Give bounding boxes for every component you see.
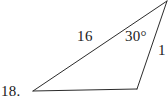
base-edge-line — [33, 89, 137, 91]
side-length-label-1: 1 — [158, 43, 166, 58]
long-edge-line — [33, 1, 167, 91]
triangle-shape — [0, 0, 168, 104]
side-length-label-16: 16 — [77, 29, 93, 44]
angle-measure-label-30: 30° — [125, 29, 147, 44]
problem-number-label: 18. — [1, 84, 20, 99]
geometry-figure: 18. 16 30° 1 — [0, 0, 168, 104]
